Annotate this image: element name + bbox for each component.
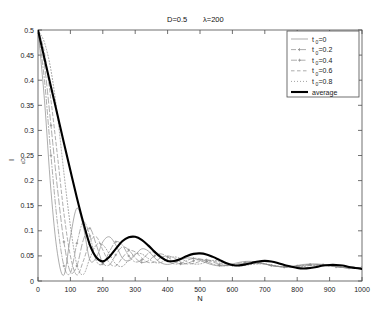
chart-canvas: D=0.5 λ=200 0100200300400500600700800900… bbox=[0, 0, 383, 320]
legend-label-value: =0.8 bbox=[319, 78, 333, 85]
y-tick-label: 0.05 bbox=[20, 252, 34, 259]
x-tick-label: 500 bbox=[194, 286, 206, 293]
y-tick-label: 0.25 bbox=[20, 152, 34, 159]
y-axis-label-subscript: εD bbox=[20, 158, 26, 164]
x-axis-label: N bbox=[197, 294, 202, 303]
y-tick-label: 0.35 bbox=[20, 102, 34, 109]
x-tick-label: 400 bbox=[162, 286, 174, 293]
legend-label: t bbox=[312, 46, 314, 53]
legend-label-value: =0 bbox=[319, 36, 327, 43]
x-tick-label: 1000 bbox=[354, 286, 370, 293]
legend-label: t bbox=[312, 57, 314, 64]
chart-title-d: D=0.5 bbox=[167, 15, 187, 24]
y-tick-label: 0.1 bbox=[24, 227, 34, 234]
x-tick-label: 600 bbox=[227, 286, 239, 293]
y-tick-label: 0.2 bbox=[24, 177, 34, 184]
y-tick-label: 0.45 bbox=[20, 52, 34, 59]
y-tick-label: 0 bbox=[30, 278, 34, 285]
x-tick-label: 100 bbox=[65, 286, 77, 293]
legend-label-value: =0.6 bbox=[319, 67, 333, 74]
legend[interactable]: t0=0t0=0.2t0=0.4t0=0.6t0=0.8average bbox=[287, 31, 359, 97]
x-tick-label: 800 bbox=[291, 286, 303, 293]
y-tick-label: 0.3 bbox=[24, 127, 34, 134]
x-tick-label: 300 bbox=[129, 286, 141, 293]
y-tick-label: 0.5 bbox=[24, 27, 34, 34]
chart-title-lambda: λ=200 bbox=[203, 15, 224, 24]
legend-label: average bbox=[312, 89, 337, 97]
y-tick-label: 0.4 bbox=[24, 77, 34, 84]
x-tick-label: 900 bbox=[324, 286, 336, 293]
y-tick-label: 0.15 bbox=[20, 202, 34, 209]
figure-container: D=0.5 λ=200 0100200300400500600700800900… bbox=[0, 0, 383, 320]
x-tick-label: 0 bbox=[36, 286, 40, 293]
y-axis-label: I bbox=[7, 159, 16, 161]
x-tick-label: 700 bbox=[259, 286, 271, 293]
x-tick-label: 200 bbox=[97, 286, 109, 293]
legend-label: t bbox=[312, 78, 314, 85]
legend-label-value: =0.4 bbox=[319, 57, 333, 64]
legend-label: t bbox=[312, 67, 314, 74]
legend-label-value: =0.2 bbox=[319, 46, 333, 53]
legend-label: t bbox=[312, 36, 314, 43]
